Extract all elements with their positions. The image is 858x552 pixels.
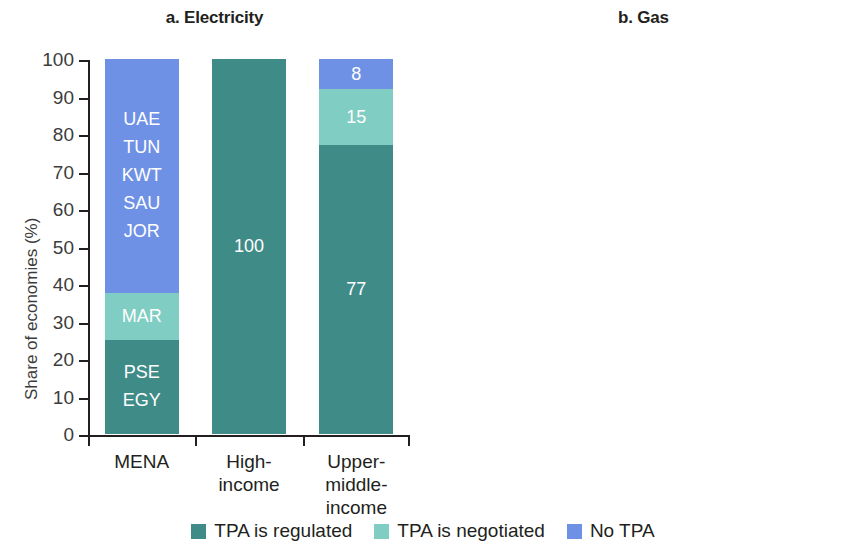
- y-axis-tick: [79, 323, 88, 325]
- legend-item[interactable]: No TPA: [567, 520, 655, 542]
- y-axis-tick: [79, 248, 88, 250]
- y-axis-tick-label: 100: [42, 49, 74, 71]
- panel-gas: b. Gas Share of economies (%) 1009080706…: [429, 0, 858, 515]
- economy-code: KWT: [122, 162, 162, 190]
- economy-code: EGY: [123, 387, 161, 415]
- x-axis-tick: [88, 435, 90, 446]
- panel-a-y-axis-label: Share of economies (%): [22, 218, 42, 400]
- y-axis-tick: [79, 173, 88, 175]
- legend-item[interactable]: TPA is negotiated: [374, 520, 545, 542]
- y-axis-tick-label: 30: [53, 312, 74, 334]
- y-axis-tick: [79, 98, 88, 100]
- bar-segment[interactable]: 77: [319, 145, 393, 434]
- y-axis-tick-label: 80: [53, 124, 74, 146]
- bar-mena[interactable]: UAETUNKWTSAUJORMARPSEEGY: [105, 59, 179, 434]
- bar-segment[interactable]: 15: [319, 89, 393, 145]
- category-label-line: middle-: [290, 473, 422, 496]
- legend: TPA is regulatedTPA is negotiatedNo TPA: [0, 520, 858, 542]
- legend-swatch-icon: [374, 524, 389, 539]
- y-axis-tick-label: 20: [53, 349, 74, 371]
- panel-a-x-axis: [88, 435, 410, 437]
- category-label-line: income: [290, 496, 422, 519]
- y-axis-tick-label: 60: [53, 199, 74, 221]
- economy-code: JOR: [124, 218, 160, 246]
- legend-label: No TPA: [590, 520, 655, 542]
- legend-label: TPA is regulated: [214, 520, 352, 542]
- y-axis-tick-label: 10: [53, 387, 74, 409]
- legend-swatch-icon: [191, 524, 206, 539]
- y-axis-tick: [79, 60, 88, 62]
- x-axis-tick: [408, 435, 410, 446]
- x-axis-tick: [303, 435, 305, 446]
- panel-b-title: b. Gas: [429, 8, 858, 28]
- economy-code: PSE: [124, 359, 160, 387]
- bar-segment[interactable]: 100: [212, 59, 286, 434]
- y-axis-tick-label: 70: [53, 162, 74, 184]
- economy-code-list: MAR: [105, 293, 179, 340]
- economy-code: MAR: [122, 303, 162, 331]
- x-axis-category-label: Upper-middle-income: [290, 450, 422, 520]
- bar-upper-middle-income[interactable]: 81577: [319, 59, 393, 434]
- panel-a-plot-area: 1009080706050403020100UAETUNKWTSAUJORMAR…: [88, 60, 410, 435]
- economy-code: UAE: [123, 106, 160, 134]
- legend-label: TPA is negotiated: [397, 520, 545, 542]
- stacked-bar-figure: a. Electricity Share of economies (%) 10…: [0, 0, 858, 552]
- y-axis-tick-label: 90: [53, 87, 74, 109]
- category-label-line: Upper-: [290, 450, 422, 473]
- bar-value-label: 100: [234, 236, 264, 257]
- y-axis-tick-label: 40: [53, 274, 74, 296]
- bar-value-label: 77: [346, 279, 366, 300]
- panel-a-y-axis: [88, 60, 90, 436]
- bar-segment[interactable]: MAR: [105, 293, 179, 340]
- y-axis-tick: [79, 398, 88, 400]
- panel-a-title: a. Electricity: [0, 8, 429, 28]
- economy-code: TUN: [123, 134, 160, 162]
- economy-code: SAU: [123, 190, 160, 218]
- bar-segment[interactable]: PSEEGY: [105, 340, 179, 434]
- y-axis-tick: [79, 210, 88, 212]
- legend-item[interactable]: TPA is regulated: [191, 520, 352, 542]
- panel-electricity: a. Electricity Share of economies (%) 10…: [0, 0, 429, 515]
- economy-code-list: UAETUNKWTSAUJOR: [105, 59, 179, 293]
- y-axis-tick-label: 0: [63, 424, 74, 446]
- y-axis-tick: [79, 360, 88, 362]
- bar-value-label: 15: [346, 107, 366, 128]
- bar-segment[interactable]: 8: [319, 59, 393, 89]
- y-axis-tick: [79, 285, 88, 287]
- y-axis-tick: [79, 435, 88, 437]
- x-axis-tick: [195, 435, 197, 446]
- bar-segment[interactable]: UAETUNKWTSAUJOR: [105, 59, 179, 293]
- y-axis-tick: [79, 135, 88, 137]
- bar-value-label: 8: [351, 64, 361, 85]
- legend-swatch-icon: [567, 524, 582, 539]
- bar-high-income[interactable]: 100: [212, 59, 286, 434]
- economy-code-list: PSEEGY: [105, 340, 179, 434]
- y-axis-tick-label: 50: [53, 237, 74, 259]
